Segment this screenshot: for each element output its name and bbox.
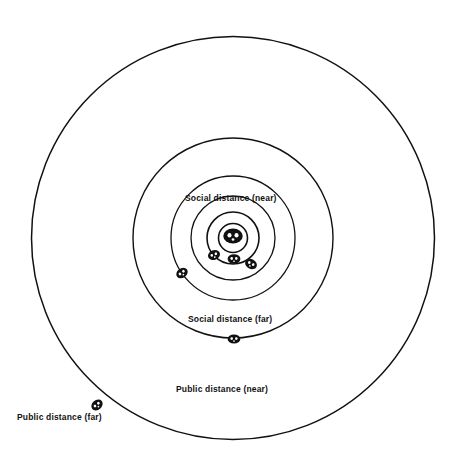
person-center bbox=[223, 228, 242, 243]
person-inner-bottom bbox=[228, 254, 241, 264]
label-public-distance-far: Public distance (far) bbox=[17, 413, 102, 422]
person-public-far-bottomleft bbox=[89, 397, 105, 412]
person-public-near-bottom bbox=[228, 334, 241, 343]
person-social-near-right bbox=[243, 257, 258, 271]
proxemics-diagram: Social distance (near) Social distance (… bbox=[0, 0, 458, 473]
person-social-far-left bbox=[174, 265, 190, 280]
label-public-distance-near: Public distance (near) bbox=[176, 385, 268, 394]
proxemics-canvas bbox=[0, 0, 458, 473]
label-social-distance-near: Social distance (near) bbox=[185, 194, 277, 203]
label-social-distance-far: Social distance (far) bbox=[188, 315, 272, 324]
